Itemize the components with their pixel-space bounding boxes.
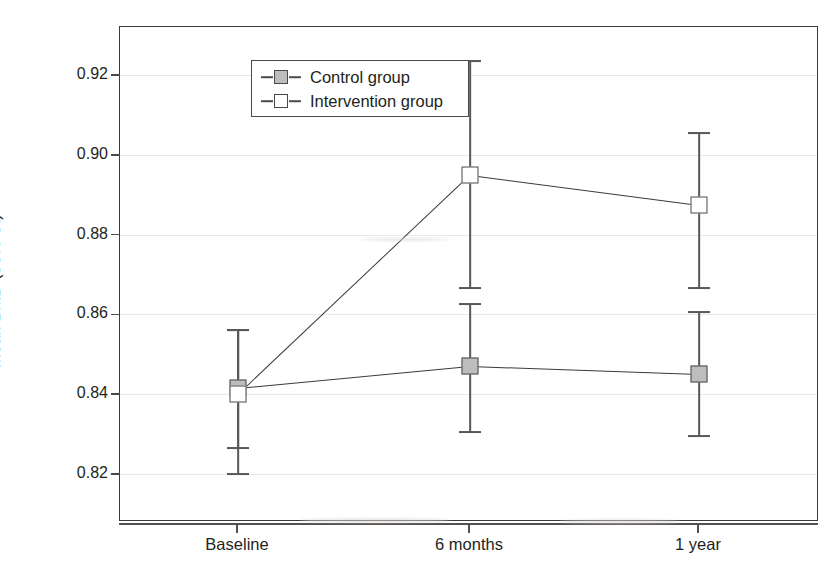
y-axis-tick-label: 0.82 bbox=[77, 464, 108, 482]
data-point-control bbox=[462, 358, 479, 375]
x-axis-tick bbox=[468, 523, 470, 533]
data-point-intervention bbox=[462, 166, 479, 183]
error-bar-cap bbox=[459, 431, 481, 433]
y-axis-title-text: Mean BMD (95% CI) bbox=[0, 214, 4, 368]
error-bar-cap bbox=[688, 311, 710, 313]
error-bar-cap bbox=[688, 132, 710, 134]
x-axis-tick bbox=[236, 523, 238, 533]
gridline bbox=[120, 474, 817, 475]
y-axis-tick-label: 0.84 bbox=[77, 384, 108, 402]
error-bar-cap bbox=[688, 435, 710, 437]
series-segment bbox=[238, 175, 471, 395]
legend: Control group Intervention group bbox=[251, 60, 469, 117]
data-point-intervention bbox=[691, 196, 708, 213]
y-axis-tick-label: 0.88 bbox=[77, 225, 108, 243]
x-axis-tick-label: Baseline bbox=[205, 535, 268, 554]
y-axis-tick bbox=[111, 393, 120, 395]
bmd-line-chart: Mean BMD (95% CI) 0.820.840.860.880.900.… bbox=[0, 0, 839, 582]
plot-area: Control group Intervention group bbox=[119, 26, 818, 521]
legend-key-control-icon bbox=[261, 69, 301, 86]
legend-key-intervention-icon bbox=[261, 93, 301, 110]
y-axis-tick bbox=[111, 314, 120, 316]
legend-entry-control: Control group bbox=[252, 65, 468, 89]
legend-label-control: Control group bbox=[310, 69, 410, 86]
x-axis-tick-label: 6 months bbox=[435, 535, 503, 554]
legend-entry-intervention: Intervention group bbox=[252, 89, 468, 113]
y-axis-tick bbox=[111, 473, 120, 475]
y-axis-tick-label: 0.86 bbox=[77, 304, 108, 322]
error-bar-cap bbox=[688, 288, 710, 290]
data-point-intervention bbox=[230, 386, 247, 403]
legend-label-intervention: Intervention group bbox=[310, 93, 443, 110]
y-axis-tick-labels: 0.820.840.860.880.900.92 bbox=[46, 26, 108, 521]
series-segment bbox=[470, 366, 699, 375]
y-axis-tick bbox=[111, 154, 120, 156]
error-bar-cap bbox=[227, 329, 249, 331]
scan-smudge bbox=[560, 519, 680, 524]
error-bar-cap bbox=[459, 288, 481, 290]
y-axis-tick-label: 0.90 bbox=[77, 145, 108, 163]
x-axis-tick-label: 1 year bbox=[675, 535, 721, 554]
x-axis-tick bbox=[697, 523, 699, 533]
y-axis-tick-label: 0.92 bbox=[77, 65, 108, 83]
data-point-control bbox=[691, 366, 708, 383]
scan-smudge bbox=[360, 238, 450, 241]
error-bar-cap bbox=[227, 473, 249, 475]
series-segment bbox=[470, 175, 699, 206]
scan-smudge bbox=[300, 518, 450, 523]
error-bar-cap bbox=[459, 303, 481, 305]
y-axis-tick bbox=[111, 234, 120, 236]
y-axis-tick bbox=[111, 74, 120, 76]
series-segment bbox=[238, 366, 470, 389]
